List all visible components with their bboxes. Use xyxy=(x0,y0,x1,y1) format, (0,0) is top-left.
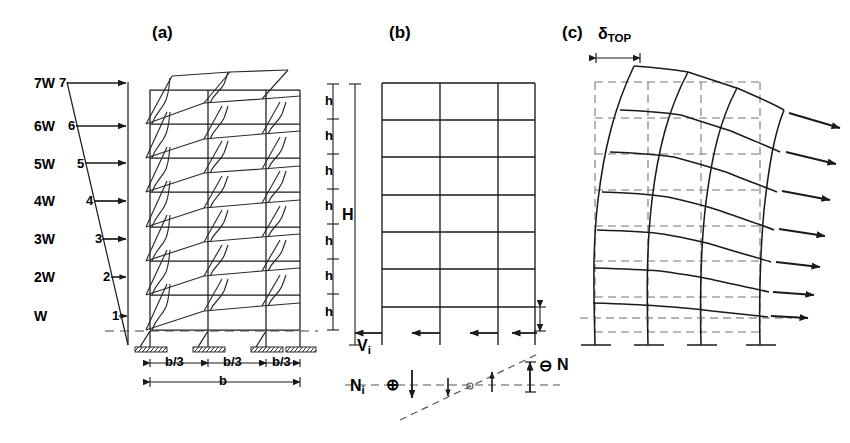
bay-dim-1: b/3 xyxy=(165,355,184,368)
figure-root: (a) (b) (c) δTOP 7W 6W 5W 4W 3W 2W W 7 6… xyxy=(0,0,850,443)
load-label-W: W xyxy=(34,309,47,323)
storey-height-4: h xyxy=(325,199,333,212)
panel-b-frame xyxy=(355,83,546,345)
panel-a-load-diagram xyxy=(67,82,128,345)
load-label-6W: 6W xyxy=(34,119,55,133)
overall-height-label: H xyxy=(342,207,354,223)
axial-subscript-left: i xyxy=(362,384,365,396)
storey-height-3: h xyxy=(325,164,333,177)
node-label-4: 4 xyxy=(86,194,93,207)
drift-subscript: TOP xyxy=(608,32,631,44)
panel-a-frame xyxy=(105,70,318,387)
panel-c-title: (c) xyxy=(562,24,583,41)
panel-a-title: (a) xyxy=(152,24,173,41)
bay-dim-2: b/3 xyxy=(223,355,242,368)
node-label-5: 5 xyxy=(77,157,84,170)
drift-symbol: δ xyxy=(598,25,608,42)
shear-force-label: Vi xyxy=(357,338,371,356)
panel-c-frame xyxy=(580,53,840,345)
load-label-2W: 2W xyxy=(34,270,55,284)
negative-sign-icon: ⊖ xyxy=(539,358,552,374)
load-label-3W: 3W xyxy=(34,232,55,246)
node-label-1: 1 xyxy=(112,309,119,322)
node-label-7: 7 xyxy=(59,76,66,89)
axial-force-label-right: N xyxy=(557,357,569,373)
drift-top-label: δTOP xyxy=(598,26,631,44)
storey-height-5: h xyxy=(325,234,333,247)
storey-height-6: h xyxy=(325,269,333,282)
axial-symbol-left: N xyxy=(350,377,362,394)
load-label-5W: 5W xyxy=(34,157,55,171)
shear-subscript: i xyxy=(368,344,371,356)
node-label-6: 6 xyxy=(68,119,75,132)
load-label-7W: 7W xyxy=(34,76,55,90)
load-label-4W: 4W xyxy=(34,194,55,208)
lateral-force-arrow-group xyxy=(771,113,840,318)
axial-force-label-left: Ni xyxy=(350,378,365,396)
shear-symbol: V xyxy=(357,337,368,354)
overall-width-dim: b xyxy=(219,374,227,387)
storey-height-1: h xyxy=(325,94,333,107)
support-group xyxy=(135,331,316,352)
storey-height-2: h xyxy=(325,129,333,142)
storey-height-7: h xyxy=(325,305,333,318)
positive-sign-icon: ⊕ xyxy=(386,377,399,393)
axial-force-diagram xyxy=(345,353,560,420)
node-label-2: 2 xyxy=(103,270,110,283)
bay-dim-3: b/3 xyxy=(272,355,291,368)
panel-b-title: (b) xyxy=(389,24,411,41)
diagram-canvas xyxy=(0,0,850,443)
node-label-3: 3 xyxy=(95,232,102,245)
